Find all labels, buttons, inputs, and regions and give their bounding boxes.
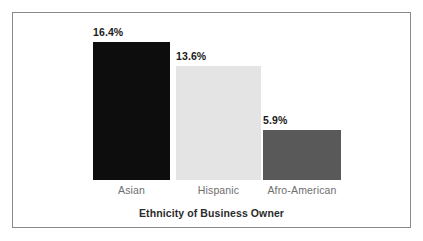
bar-category-label: Hispanic <box>176 184 261 196</box>
x-axis-title: Ethnicity of Business Owner <box>13 207 410 219</box>
bar-hispanic[interactable] <box>176 66 261 180</box>
bar-afro-american[interactable] <box>263 130 341 180</box>
bar-group: 13.6%Hispanic <box>176 66 261 180</box>
plot-area: 16.4%Asian13.6%Hispanic5.9%Afro-American… <box>13 13 410 227</box>
bar-value-label: 13.6% <box>176 50 206 62</box>
bar-value-label: 5.9% <box>263 114 287 126</box>
bar-asian[interactable] <box>93 42 170 180</box>
bar-group: 5.9%Afro-American <box>263 130 341 180</box>
bar-category-label: Asian <box>93 184 170 196</box>
bar-category-label: Afro-American <box>263 184 341 196</box>
chart-frame: 16.4%Asian13.6%Hispanic5.9%Afro-American… <box>12 12 411 228</box>
chart-figure: 16.4%Asian13.6%Hispanic5.9%Afro-American… <box>0 0 423 241</box>
bar-value-label: 16.4% <box>93 26 123 38</box>
bar-group: 16.4%Asian <box>93 42 170 180</box>
